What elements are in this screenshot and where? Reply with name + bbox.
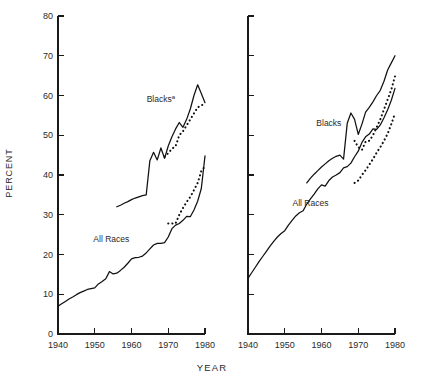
x-tick-label-right-1960: 1960: [311, 340, 331, 350]
x-tick-label-right-1970: 1970: [348, 340, 368, 350]
x-tick-label-left-1950: 1950: [85, 340, 105, 350]
x-tick-label-left-1940: 1940: [48, 340, 68, 350]
series-annotation-left-blacks: Blacksa: [147, 94, 175, 105]
y-tick-label-10: 10: [43, 289, 53, 299]
axis-spine-left: [58, 16, 205, 334]
series-annotation-left-all-races: All Races: [93, 234, 129, 244]
axis-spine-right: [248, 16, 395, 334]
x-tick-label-right-1980: 1980: [385, 340, 405, 350]
series-right-all-races-solid: [248, 88, 395, 278]
series-annotation-right-all-races: All Races: [293, 198, 329, 208]
x-tick-label-left-1970: 1970: [158, 340, 178, 350]
two-panel-line-chart: PERCENT YEAR 010203040506070801940195019…: [0, 0, 424, 383]
series-left-all-races-solid: [58, 156, 205, 306]
x-tick-label-left-1980: 1980: [195, 340, 215, 350]
y-tick-label-80: 80: [43, 11, 53, 21]
x-tick-label-left-1960: 1960: [121, 340, 141, 350]
y-tick-label-70: 70: [43, 51, 53, 61]
y-tick-label-30: 30: [43, 210, 53, 220]
y-tick-label-0: 0: [48, 329, 53, 339]
plot-canvas: [0, 0, 424, 383]
y-tick-label-20: 20: [43, 250, 53, 260]
x-tick-label-right-1940: 1940: [238, 340, 258, 350]
x-tick-label-right-1950: 1950: [275, 340, 295, 350]
footnote-marker: a: [172, 94, 175, 100]
series-left-blacks-alternate-revised-dotted: [165, 105, 205, 157]
y-tick-label-60: 60: [43, 91, 53, 101]
series-annotation-right-blacks: Blacks: [316, 118, 341, 128]
series-right-blacks-alternate-revised-dotted: [355, 76, 395, 150]
series-right-all-races-alternate-revised-dotted: [355, 113, 395, 183]
y-tick-label-50: 50: [43, 130, 53, 140]
y-tick-label-40: 40: [43, 170, 53, 180]
